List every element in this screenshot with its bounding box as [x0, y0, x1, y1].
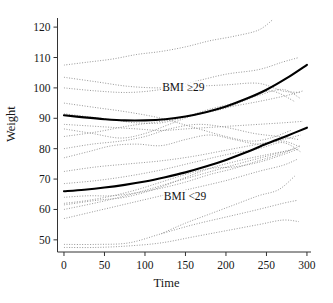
y-tick-label: 120 — [33, 21, 50, 33]
y-axis-title: Weight — [4, 128, 19, 142]
y-tick-label: 80 — [39, 143, 51, 155]
y-tick-label: 110 — [34, 52, 51, 64]
x-tick-label: 0 — [61, 259, 67, 271]
x-tick-label: 250 — [258, 259, 275, 271]
y-tick-label: 70 — [39, 173, 51, 185]
curve-annotation-bmi-ge-29: BMI ≥29 — [161, 81, 205, 93]
curve-annotation-bmi-lt-29: BMI <29 — [163, 190, 208, 202]
y-tick-label: 100 — [33, 82, 50, 94]
y-tick-label: 50 — [39, 234, 51, 246]
x-tick-label: 150 — [177, 259, 194, 271]
x-tick-label: 100 — [136, 259, 153, 271]
y-tick-label: 90 — [39, 112, 51, 124]
y-tick-label: 60 — [39, 203, 51, 215]
chart-figure: 5060708090100110120 050100150200250300 B… — [0, 0, 333, 303]
x-tick-label: 200 — [217, 259, 234, 271]
x-tick-label: 50 — [99, 259, 111, 271]
x-axis-title: Time — [0, 276, 333, 291]
x-tick-label: 300 — [298, 259, 315, 271]
